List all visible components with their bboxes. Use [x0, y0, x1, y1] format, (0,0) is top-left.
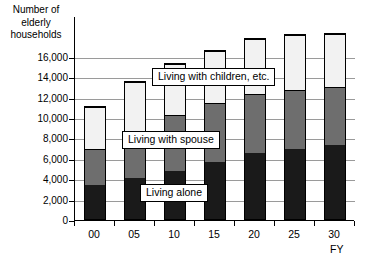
bar-segment-living-alone	[325, 145, 345, 219]
y-axis-tick-label: 12,000	[0, 93, 68, 104]
x-axis-tick	[314, 221, 315, 226]
bar-segment-living-with-children-etc	[285, 35, 305, 89]
callout-living-with-spouse: Living with spouse	[122, 131, 220, 149]
y-axis-tick	[69, 180, 75, 181]
plot-area	[74, 17, 354, 221]
bar-segment-living-with-spouse	[245, 94, 265, 154]
y-axis-tick-label: 0	[0, 215, 68, 226]
x-axis-label-05: 05	[114, 228, 154, 240]
y-axis-tick-label: 8,000	[0, 133, 68, 144]
x-axis-label-10: 10	[154, 228, 194, 240]
x-axis-title: FY	[330, 243, 343, 255]
y-axis-title-line-2: elderly	[0, 17, 72, 30]
bar-segment-living-with-children-etc	[125, 82, 145, 131]
y-axis-tick-label: 10,000	[0, 113, 68, 124]
x-axis-label-00: 00	[74, 228, 114, 240]
y-axis-tick-label: 6,000	[0, 154, 68, 165]
y-axis-tick	[69, 119, 75, 120]
y-axis-title-line-3: households	[0, 29, 72, 42]
x-axis-tick	[114, 221, 115, 226]
x-axis-tick	[154, 221, 155, 226]
callout-living-alone: Living alone	[140, 184, 208, 202]
bar-segment-living-alone	[285, 149, 305, 219]
y-axis-tick-label: 4,000	[0, 174, 68, 185]
bar-fy-20	[244, 38, 266, 220]
bar-segment-living-with-spouse	[325, 87, 345, 146]
bar-segment-living-alone	[85, 185, 105, 219]
x-axis-label-25: 25	[274, 228, 314, 240]
bar-fy-30	[324, 33, 346, 220]
bar-fy-25	[284, 34, 306, 220]
bar-segment-living-alone	[245, 153, 265, 219]
x-axis-tick	[354, 221, 355, 226]
x-axis-tick	[74, 221, 75, 226]
y-axis-tick	[69, 201, 75, 202]
y-axis-tick	[69, 58, 75, 59]
bar-segment-living-with-spouse	[85, 149, 105, 185]
bar-fy-00	[84, 106, 106, 220]
y-axis-tick	[69, 99, 75, 100]
y-axis-title-line-1: Number of	[0, 4, 72, 17]
x-axis-tick	[234, 221, 235, 226]
y-axis-tick-label: 14,000	[0, 72, 68, 83]
clipped-footnote	[0, 261, 365, 267]
x-axis-tick	[274, 221, 275, 226]
x-axis-label-15: 15	[194, 228, 234, 240]
y-axis-tick	[69, 160, 75, 161]
x-axis-label-30: 30	[314, 228, 354, 240]
x-axis-tick	[194, 221, 195, 226]
callout-living-with-children-etc: Living with children, etc.	[152, 68, 275, 86]
y-axis-tick-label: 16,000	[0, 52, 68, 63]
bar-segment-living-with-children-etc	[325, 34, 345, 86]
chart-container: Number ofelderlyhouseholds 02,0004,0006,…	[0, 0, 365, 267]
x-axis-label-20: 20	[234, 228, 274, 240]
y-axis-title: Number ofelderlyhouseholds	[0, 4, 72, 42]
y-axis-tick	[69, 139, 75, 140]
y-axis-tick	[69, 78, 75, 79]
bar-segment-living-with-children-etc	[85, 107, 105, 149]
y-axis-tick-label: 2,000	[0, 195, 68, 206]
bar-segment-living-with-spouse	[285, 90, 305, 150]
